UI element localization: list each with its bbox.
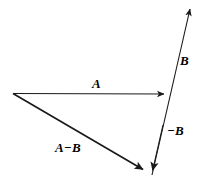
vector-a-line	[13, 94, 164, 95]
vector-label-a: A	[92, 77, 101, 90]
vector-canvas	[0, 0, 202, 190]
vector-label-negative-b: −B	[167, 124, 184, 137]
vector-label-a-minus-b: A−B	[55, 141, 81, 154]
vector-a-minus-b-line	[13, 94, 143, 170]
vector-diagram: A B −B A−B	[0, 0, 202, 190]
vector-neg-b-arrowhead	[153, 125, 163, 171]
vector-label-b: B	[180, 54, 189, 67]
